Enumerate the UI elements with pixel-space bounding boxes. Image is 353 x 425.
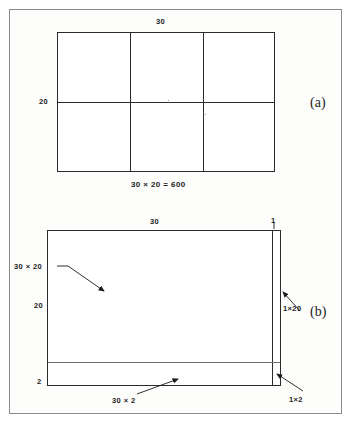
panel-b-tag: (b) [310,305,326,319]
panel-b-left-upper-dimension-label: 20 [34,302,43,310]
panel-b-main-region-label: 30 × 20 [14,263,42,271]
panel-b-right-region-label: 1×20 [283,305,302,313]
panel-a-top-dimension-label: 30 [156,18,165,26]
panel-b-top-right-dimension-label: 1 [271,217,276,225]
panel-b-rectangle [47,230,281,386]
panel-a-speck [168,100,169,101]
panel-a-speck-2 [205,114,206,115]
panel-a-rectangle [57,32,275,172]
panel-b-top-dimension-label: 30 [150,218,159,226]
panel-a-grid-hline-1 [58,102,274,103]
panel-b-bottom-region-label: 30 × 2 [112,397,135,405]
panel-b-left-lower-dimension-label: 2 [37,378,42,386]
panel-b-bottom-strip-divider [48,362,280,363]
panel-a-left-dimension-label: 20 [39,98,48,106]
figure-canvas: 30 20 30 × 20 = 600 (a) 30 1 20 2 30 × 2… [0,0,353,425]
panel-a-caption: 30 × 20 = 600 [131,181,186,189]
panel-b-corner-region-label: 1×2 [289,396,303,404]
panel-a-tag: (a) [310,96,326,110]
